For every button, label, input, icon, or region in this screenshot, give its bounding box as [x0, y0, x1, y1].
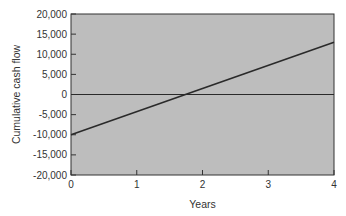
y-tick-label: 10,000 — [36, 49, 67, 60]
y-axis-title: Cumulative cash flow — [10, 44, 22, 144]
cash-flow-chart: 20,00015,00010,0005,0000-5,000-10,000-15… — [0, 0, 346, 216]
y-tick-label: 0 — [61, 89, 67, 100]
x-tick-label: 3 — [265, 179, 271, 190]
y-tick-label: 5,000 — [42, 69, 67, 80]
y-tick-label: -5,000 — [39, 109, 68, 120]
y-tick-label: -20,000 — [33, 170, 67, 181]
y-tick-label: 15,000 — [36, 29, 67, 40]
y-tick-label: 20,000 — [36, 9, 67, 20]
x-tick-label: 0 — [68, 179, 74, 190]
y-axis: 20,00015,00010,0005,0000-5,000-10,000-15… — [33, 9, 76, 181]
y-tick-label: -10,000 — [33, 129, 67, 140]
x-tick-label: 2 — [200, 179, 206, 190]
x-tick-label: 1 — [134, 179, 140, 190]
x-axis-title: Years — [189, 198, 215, 210]
y-tick-label: -15,000 — [33, 149, 67, 160]
x-tick-label: 4 — [331, 179, 337, 190]
